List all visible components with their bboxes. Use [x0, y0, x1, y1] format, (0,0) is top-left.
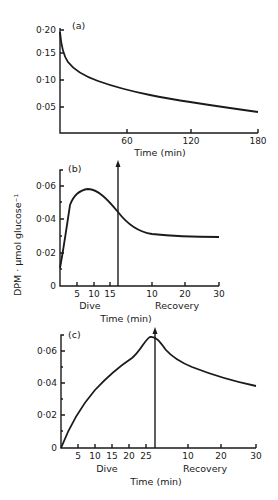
chart-a-ytick-0-10: 0·10: [36, 75, 56, 85]
chart-c-panel-label: (c): [68, 329, 81, 340]
chart-b-xtick-15: 15: [104, 289, 115, 299]
chart-b-ytick-0-04: 0·04: [36, 214, 56, 224]
chart-c-xtick-5: 5: [75, 451, 81, 461]
chart-b-xtick-10: 10: [88, 289, 100, 299]
chart-c-curve: [61, 337, 256, 448]
chart-b-xlabel: Time (min): [99, 313, 152, 324]
chart-c-ytick-0-02: 0·02: [37, 410, 57, 420]
chart-b-ytick-0: 0: [50, 281, 56, 291]
chart-b-xtick-rec-20: 20: [179, 289, 191, 299]
chart-b-dive-label: Dive: [79, 300, 101, 311]
chart-b-arrow-icon: [116, 160, 121, 167]
chart-b-axes: [60, 170, 219, 286]
chart-b-xtick-rec-30: 30: [213, 289, 225, 299]
chart-b-xtick-rec-10: 10: [146, 289, 158, 299]
chart-b-panel-label: (b): [68, 163, 81, 174]
chart-a-panel-label: (a): [72, 20, 85, 31]
chart-c-ytick-0: 0: [51, 443, 57, 453]
chart-c-axes: [61, 335, 256, 448]
chart-c-xtick-25: 25: [140, 451, 151, 461]
chart-a-xtick-120: 120: [182, 136, 199, 146]
chart-c-ytick-0-06: 0·06: [37, 346, 57, 356]
chart-a: 0·20 0·15 0·10 0·05 60 120 180 Time (min…: [36, 20, 267, 158]
figure: 0·20 0·15 0·10 0·05 60 120 180 Time (min…: [0, 0, 278, 500]
y-axis-label: DPM · µmol glucose⁻¹: [12, 193, 23, 296]
chart-a-axes: [60, 28, 258, 133]
chart-a-curve: [60, 32, 258, 112]
chart-b-curve: [60, 189, 219, 268]
chart-c-xlabel: Time (min): [129, 476, 182, 487]
chart-c-xtick-rec-20: 20: [215, 451, 227, 461]
chart-c-dive-label: Dive: [96, 463, 118, 474]
chart-b-ytick-0-02: 0·02: [36, 248, 56, 258]
chart-a-ytick-0-15: 0·15: [36, 48, 56, 58]
chart-c-xtick-rec-30: 30: [250, 451, 262, 461]
chart-b-xtick-5: 5: [74, 289, 80, 299]
chart-c-ytick-0-04: 0·04: [37, 378, 57, 388]
chart-c-xtick-10: 10: [89, 451, 101, 461]
chart-a-xlabel: Time (min): [133, 147, 186, 158]
chart-a-xtick-180: 180: [249, 136, 266, 146]
chart-b: 0·06 0·04 0·02 0 5 10 15 10 20 30 Dive R…: [36, 160, 225, 324]
chart-c-xtick-20: 20: [123, 451, 135, 461]
chart-a-ytick-0-05: 0·05: [36, 102, 56, 112]
chart-b-recovery-label: Recovery: [155, 300, 199, 311]
chart-a-xtick-60: 60: [121, 136, 133, 146]
chart-c-arrow-icon: [153, 327, 158, 334]
chart-b-ytick-0-06: 0·06: [36, 181, 56, 191]
chart-a-ytick-0-20: 0·20: [36, 25, 56, 35]
chart-c-xtick-rec-10: 10: [182, 451, 194, 461]
chart-c-recovery-label: Recovery: [183, 463, 227, 474]
chart-c: 0·06 0·04 0·02 0 5 10 15 20 25 10 20 30 …: [37, 327, 262, 487]
chart-c-xtick-15: 15: [106, 451, 117, 461]
